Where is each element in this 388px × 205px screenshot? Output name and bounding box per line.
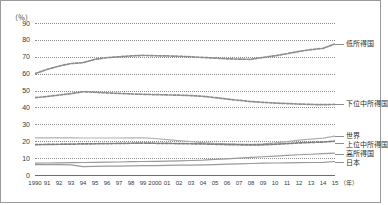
series-line-0 <box>35 44 335 74</box>
x-axis-tick-03: 03 <box>186 180 197 187</box>
x-axis-tick-01: 01 <box>162 180 173 187</box>
x-axis-tick-07: 07 <box>234 180 245 187</box>
series-leader-4 <box>335 154 344 155</box>
series-label-1: 下位中所得国 <box>346 100 388 108</box>
y-axis-tick-40: 40 <box>14 104 30 111</box>
x-axis-tick-91: 91 <box>42 180 53 187</box>
x-axis-tick-05: 05 <box>210 180 221 187</box>
x-axis-tick-08: 08 <box>246 180 257 187</box>
x-axis-tick-06: 06 <box>222 180 233 187</box>
x-axis-tick-12: 12 <box>294 180 305 187</box>
series-line-1 <box>35 92 335 105</box>
x-axis-tick-10: 10 <box>270 180 281 187</box>
x-axis-tick-94: 94 <box>78 180 89 187</box>
chart-frame: （％） 0102030405060708090 1990919293949596… <box>0 0 381 203</box>
y-axis-tick-50: 50 <box>14 87 30 94</box>
plot-area <box>35 23 335 175</box>
y-axis-tick-80: 80 <box>14 36 30 43</box>
series-label-4: 高所得国 <box>346 150 374 158</box>
y-axis-tick-10: 10 <box>14 155 30 162</box>
x-axis-baseline <box>35 175 335 176</box>
x-axis-tick-97: 97 <box>114 180 125 187</box>
y-axis-tick-20: 20 <box>14 138 30 145</box>
x-axis-unit-label: （年） <box>340 180 358 187</box>
series-label-3: 上位中所得国 <box>346 141 388 149</box>
x-axis-tick-95: 95 <box>90 180 101 187</box>
x-axis-tick-15: 15 <box>330 180 341 187</box>
series-lines-container <box>35 23 335 175</box>
x-axis-tick-93: 93 <box>66 180 77 187</box>
series-label-0: 低所得国 <box>346 40 374 48</box>
x-axis-tick-04: 04 <box>198 180 209 187</box>
x-axis-tick-09: 09 <box>258 180 269 187</box>
x-axis-tick-98: 98 <box>126 180 137 187</box>
x-axis-tick-02: 02 <box>174 180 185 187</box>
series-line-4 <box>35 153 335 163</box>
series-leader-1 <box>335 104 344 105</box>
series-label-5: 日本 <box>346 159 360 167</box>
x-axis-tick-14: 14 <box>318 180 329 187</box>
x-axis-tick-13: 13 <box>306 180 317 187</box>
series-leader-3 <box>335 143 344 144</box>
series-leader-5 <box>335 162 344 163</box>
series-label-2: 世界 <box>346 132 360 140</box>
y-axis-tick-0: 0 <box>14 172 30 179</box>
series-leader-2 <box>335 136 344 137</box>
x-axis-tick-11: 11 <box>282 180 293 187</box>
y-axis-tick-60: 60 <box>14 70 30 77</box>
y-axis-tick-30: 30 <box>14 121 30 128</box>
series-leader-0 <box>335 44 344 45</box>
x-axis-tick-92: 92 <box>54 180 65 187</box>
y-axis-tick-70: 70 <box>14 53 30 60</box>
y-axis-tick-90: 90 <box>14 20 30 27</box>
series-svg <box>35 23 335 175</box>
x-axis-tick-96: 96 <box>102 180 113 187</box>
